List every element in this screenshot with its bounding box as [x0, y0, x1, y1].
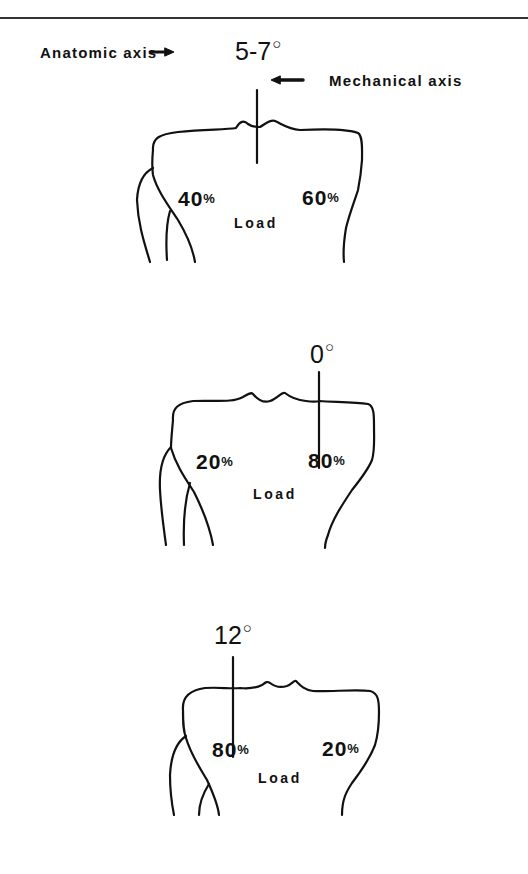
- percent-symbol: %: [221, 454, 234, 469]
- panel-1-load-label: Load: [234, 215, 278, 231]
- panel-2-angle-value: 0: [310, 340, 324, 368]
- panel-3-load-label: Load: [258, 770, 302, 786]
- panel-3-medial-load: 80%: [212, 738, 250, 762]
- panel-2-angle: 0○: [310, 338, 334, 369]
- panel-3-angle: 12○: [214, 619, 252, 650]
- percent-symbol: %: [347, 741, 360, 756]
- panel-3-angle-value: 12: [214, 621, 242, 649]
- panel-2-load-label: Load: [253, 486, 297, 502]
- degree-symbol: ○: [243, 619, 252, 636]
- percent-symbol: %: [327, 190, 340, 205]
- degree-symbol: ○: [272, 35, 281, 52]
- panel-1-angle-value: 5-7: [235, 37, 271, 65]
- panel-1-medial-load-value: 40: [178, 187, 203, 210]
- panel-1-lateral-load-value: 60: [302, 186, 327, 209]
- panel-1-medial-load: 40%: [178, 187, 216, 211]
- anatomic-axis-label: Anatomic axis: [40, 44, 157, 61]
- panel-3-lateral-load-value: 20: [322, 737, 347, 760]
- panel-2-medial-load-value: 20: [196, 450, 221, 473]
- degree-symbol: ○: [325, 338, 334, 355]
- tibia-diagram: [0, 0, 528, 874]
- panel-2-lateral-load-value: 80: [308, 449, 333, 472]
- percent-symbol: %: [237, 742, 250, 757]
- panel-2-medial-load: 20%: [196, 450, 234, 474]
- panel-3-medial-load-value: 80: [212, 738, 237, 761]
- mechanical-axis-label: Mechanical axis: [329, 72, 463, 89]
- percent-symbol: %: [203, 191, 216, 206]
- panel-1-angle: 5-7○: [235, 35, 281, 66]
- panel-3-outline: [170, 657, 379, 815]
- percent-symbol: %: [333, 453, 346, 468]
- panel-1-lateral-load: 60%: [302, 186, 340, 210]
- panel-3-lateral-load: 20%: [322, 737, 360, 761]
- panel-2-lateral-load: 80%: [308, 449, 346, 473]
